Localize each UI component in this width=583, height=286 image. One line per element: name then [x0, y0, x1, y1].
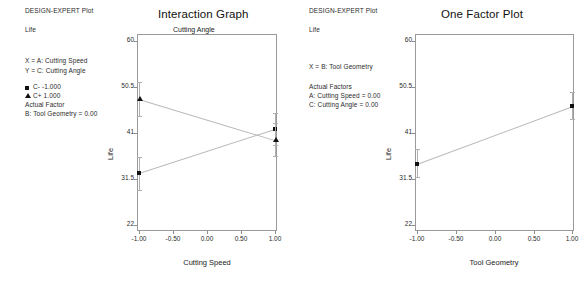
xtick-mark: [456, 231, 457, 234]
error-bar-cap: [570, 92, 575, 93]
actual-factor-b: B: Tool Geometry = 0.00: [25, 110, 97, 117]
plot-area-right: [415, 34, 574, 231]
triangle-marker-icon: [137, 96, 143, 101]
ytick-mark: [134, 87, 137, 88]
ytick-mark: [412, 133, 415, 134]
error-bar-cap: [415, 177, 420, 178]
xtick-mark: [241, 231, 242, 234]
xtick-label: -0.50: [441, 235, 471, 242]
xtick-label: 0.50: [226, 235, 256, 242]
xtick-mark: [173, 231, 174, 234]
legend-item-c-plus: C+ 1.000: [33, 92, 60, 99]
legend-item-c-minus: C- -1.000: [33, 83, 61, 90]
ytick-mark: [412, 87, 415, 88]
x-axis-title-left: Cutting Speed: [157, 258, 257, 267]
ytick-label: 60: [108, 36, 134, 43]
design-expert-plot-header: DESIGN-EXPERT Plot: [25, 7, 94, 14]
ytick-mark: [412, 41, 415, 42]
square-marker-icon: [570, 104, 574, 108]
xtick-label: 1.00: [260, 235, 290, 242]
xtick-label: -1.00: [402, 235, 432, 242]
ytick-label: 60: [386, 36, 412, 43]
xtick-mark: [139, 231, 140, 234]
error-bar-cap: [273, 156, 278, 157]
ytick-label: 22: [386, 220, 412, 227]
actual-factor-heading: Actual Factor: [25, 101, 65, 108]
one-factor-plot-panel: DESIGN-EXPERT Plot Life X = B: Tool Geom…: [291, 0, 583, 286]
chart-title-right: One Factor Plot: [441, 8, 523, 20]
ytick-mark: [134, 41, 137, 42]
ytick-label: 50.5: [386, 82, 412, 89]
ytick-mark: [134, 133, 137, 134]
xtick-mark: [275, 231, 276, 234]
square-marker-icon: [415, 162, 419, 166]
y-axis-title-left: Life: [106, 148, 115, 160]
xtick-mark: [417, 231, 418, 234]
ytick-label: 22: [108, 220, 134, 227]
xtick-label: -0.50: [158, 235, 188, 242]
ytick-label: 41: [386, 128, 412, 135]
ytick-mark: [134, 225, 137, 226]
error-bar-cap: [137, 82, 142, 83]
chart-subtitle-left: Cutting Angle: [173, 26, 215, 33]
ytick-mark: [134, 179, 137, 180]
interaction-graph-panel: DESIGN-EXPERT Plot Life X = A: Cutting S…: [0, 0, 291, 286]
y-factor-spec: Y = C: Cutting Angle: [25, 67, 86, 74]
x-factor-spec: X = A: Cutting Speed: [25, 57, 88, 64]
xtick-label: 1.00: [557, 235, 583, 242]
x-axis-title-right: Tool Geometry: [444, 258, 544, 267]
error-bar-cap: [137, 116, 142, 117]
xtick-mark: [207, 231, 208, 234]
square-marker-icon: [25, 86, 29, 90]
ytick-label: 50.5: [108, 82, 134, 89]
actual-factors-heading: Actual Factors: [309, 83, 352, 90]
xtick-label: 0.50: [519, 235, 549, 242]
ytick-mark: [412, 225, 415, 226]
error-bar-cap: [273, 123, 278, 124]
square-marker-icon: [137, 171, 141, 175]
ytick-label: 31.5: [386, 174, 412, 181]
error-bar-cap: [137, 190, 142, 191]
plot-area-left: [137, 34, 277, 231]
chart-title-left: Interaction Graph: [158, 8, 249, 20]
xtick-mark: [495, 231, 496, 234]
triangle-marker-icon: [25, 93, 31, 98]
xtick-mark: [572, 231, 573, 234]
triangle-marker-icon: [273, 137, 279, 142]
error-bar-cap: [273, 113, 278, 114]
actual-factor-c: C: Cutting Angle = 0.00: [309, 101, 378, 108]
xtick-mark: [534, 231, 535, 234]
design-expert-plot-header: DESIGN-EXPERT Plot: [309, 7, 378, 14]
response-label: Life: [25, 26, 36, 33]
y-axis-title-right: Life: [384, 148, 393, 160]
actual-factor-a: A: Cutting Speed = 0.00: [309, 92, 381, 99]
error-bar-cap: [570, 119, 575, 120]
xtick-label: -1.00: [124, 235, 154, 242]
ytick-mark: [412, 179, 415, 180]
ytick-label: 41: [108, 128, 134, 135]
x-factor-spec: X = B: Tool Geometry: [309, 63, 373, 70]
response-label: Life: [309, 26, 320, 33]
xtick-label: 0.00: [192, 235, 222, 242]
error-bar-cap: [137, 157, 142, 158]
ytick-label: 31.5: [108, 174, 134, 181]
xtick-label: 0.00: [480, 235, 510, 242]
error-bar-cap: [415, 149, 420, 150]
